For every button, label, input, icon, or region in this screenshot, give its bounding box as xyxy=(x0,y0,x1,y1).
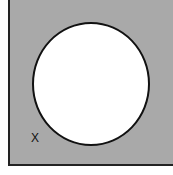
universe-label: X xyxy=(31,131,39,145)
set-circle xyxy=(32,22,150,146)
